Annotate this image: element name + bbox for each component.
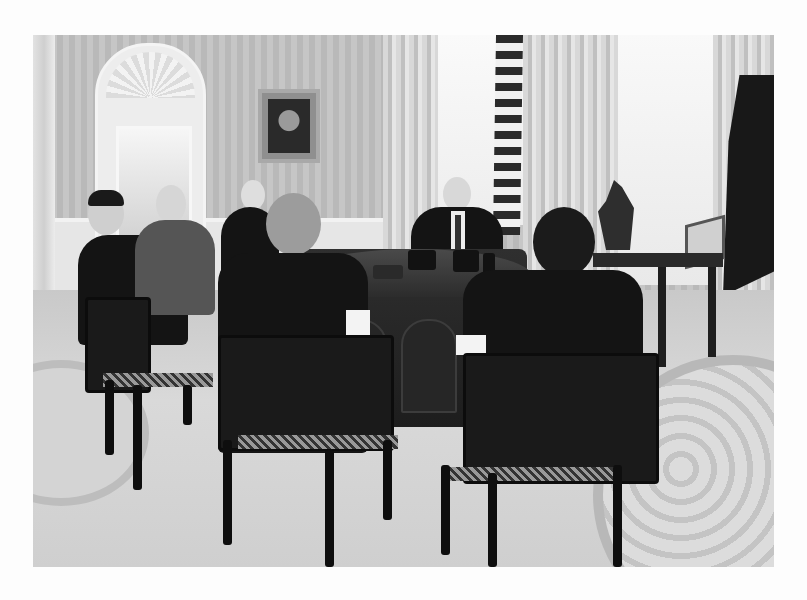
side-table-leg xyxy=(658,267,666,367)
us-flag xyxy=(493,35,523,235)
pilaster xyxy=(33,35,55,297)
side-table-leg xyxy=(708,267,716,357)
phone xyxy=(408,250,436,270)
desk-panel xyxy=(401,319,457,413)
chair-leg xyxy=(383,440,392,520)
phone xyxy=(453,250,479,272)
framed-portrait xyxy=(258,89,320,163)
shell-motif xyxy=(106,52,195,98)
chair-leg xyxy=(488,473,497,567)
head xyxy=(443,177,471,211)
chair-seat xyxy=(103,373,213,387)
chair-seat xyxy=(238,435,398,449)
desk-box xyxy=(373,265,403,279)
portrait-image xyxy=(268,99,310,153)
paper xyxy=(456,335,486,355)
chair-back xyxy=(463,353,659,484)
chair-back xyxy=(218,335,394,451)
chair-leg xyxy=(325,450,334,567)
chair-leg xyxy=(133,385,142,490)
head xyxy=(241,180,265,210)
chair-leg xyxy=(613,465,622,567)
hair xyxy=(88,190,124,206)
head xyxy=(266,193,321,255)
chair-leg xyxy=(183,385,192,425)
photograph xyxy=(33,35,774,567)
head xyxy=(156,185,186,223)
head xyxy=(533,207,595,277)
tie xyxy=(455,215,461,249)
chair-leg xyxy=(441,465,450,555)
side-table xyxy=(593,253,723,267)
chair-leg xyxy=(223,440,232,545)
chair-seat xyxy=(448,467,618,481)
chair-leg xyxy=(105,380,114,455)
